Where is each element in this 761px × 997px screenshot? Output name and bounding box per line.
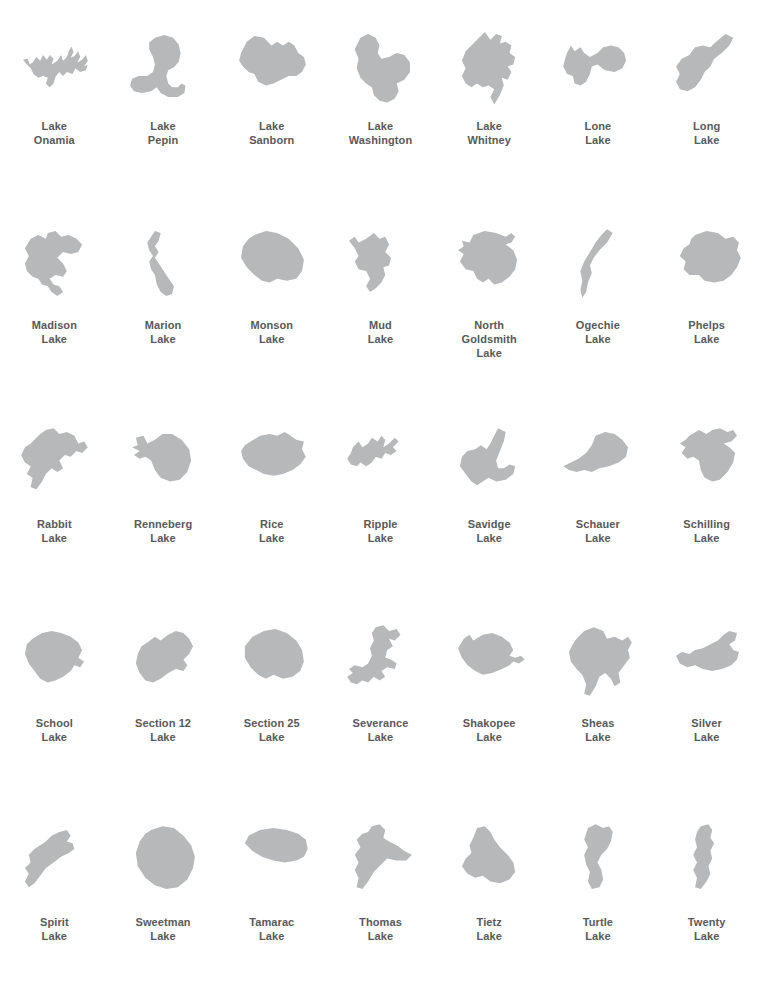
lake-caption: Lake Sanborn	[220, 119, 324, 147]
lake-caption: Silver Lake	[655, 716, 759, 744]
lake-pepin-outline-icon	[113, 12, 213, 117]
lake-cell[interactable]: Turtle Lake	[544, 798, 653, 997]
lake-sanborn-outline-icon	[222, 12, 322, 117]
turtle-lake-outline-icon	[548, 808, 648, 913]
lake-cell[interactable]: Schilling Lake	[652, 400, 761, 599]
lake-cell[interactable]: Lake Washington	[326, 2, 435, 201]
lake-caption: Tamarac Lake	[220, 915, 324, 943]
marion-lake-outline-icon	[113, 211, 213, 316]
lake-caption: Renneberg Lake	[111, 517, 215, 545]
lake-cell[interactable]: Schauer Lake	[544, 400, 653, 599]
lake-cell[interactable]: Phelps Lake	[652, 201, 761, 400]
lake-cell[interactable]: Rabbit Lake	[0, 400, 109, 599]
lake-caption: Twenty Lake	[655, 915, 759, 943]
lake-cell[interactable]: Section 25 Lake	[217, 599, 326, 798]
lake-cell[interactable]: Lone Lake	[544, 2, 653, 201]
lake-caption: Lake Whitney	[437, 119, 541, 147]
sheas-lake-outline-icon	[548, 609, 648, 714]
lake-caption: Sheas Lake	[546, 716, 650, 744]
lake-caption: Ogechie Lake	[546, 318, 650, 346]
school-lake-outline-icon	[4, 609, 104, 714]
severance-lake-outline-icon	[330, 609, 430, 714]
lake-cell[interactable]: Sheas Lake	[544, 599, 653, 798]
lake-cell[interactable]: Mud Lake	[326, 201, 435, 400]
lake-caption: School Lake	[2, 716, 106, 744]
lake-caption: Tietz Lake	[437, 915, 541, 943]
lake-cell[interactable]: Long Lake	[652, 2, 761, 201]
lake-cell[interactable]: Silver Lake	[652, 599, 761, 798]
lake-caption: Shakopee Lake	[437, 716, 541, 744]
lake-cell[interactable]: Renneberg Lake	[109, 400, 218, 599]
ripple-lake-outline-icon	[330, 410, 430, 515]
long-lake-outline-icon	[657, 12, 757, 117]
lake-whitney-outline-icon	[439, 12, 539, 117]
lake-outline-plate: Lake OnamiaLake PepinLake SanbornLake Wa…	[0, 0, 761, 997]
mud-lake-outline-icon	[330, 211, 430, 316]
lake-caption: Mud Lake	[328, 318, 432, 346]
lake-cell[interactable]: Twenty Lake	[652, 798, 761, 997]
lake-caption: Severance Lake	[328, 716, 432, 744]
lake-cell[interactable]: Ripple Lake	[326, 400, 435, 599]
thomas-lake-outline-icon	[330, 808, 430, 913]
lake-caption: Marion Lake	[111, 318, 215, 346]
lake-cell[interactable]: North Goldsmith Lake	[435, 201, 544, 400]
lake-caption: Schauer Lake	[546, 517, 650, 545]
lake-caption: Long Lake	[655, 119, 759, 147]
lake-caption: Sweetman Lake	[111, 915, 215, 943]
lake-caption: Monson Lake	[220, 318, 324, 346]
lake-caption: Rabbit Lake	[2, 517, 106, 545]
phelps-lake-outline-icon	[657, 211, 757, 316]
lake-caption: Savidge Lake	[437, 517, 541, 545]
lake-caption: Section 12 Lake	[111, 716, 215, 744]
lake-cell[interactable]: Spirit Lake	[0, 798, 109, 997]
lake-cell[interactable]: Madison Lake	[0, 201, 109, 400]
lake-caption: Turtle Lake	[546, 915, 650, 943]
lake-caption: Lone Lake	[546, 119, 650, 147]
lake-caption: Phelps Lake	[655, 318, 759, 346]
lake-cell[interactable]: Savidge Lake	[435, 400, 544, 599]
lake-cell[interactable]: Rice Lake	[217, 400, 326, 599]
rabbit-lake-outline-icon	[4, 410, 104, 515]
lake-caption: Ripple Lake	[328, 517, 432, 545]
lake-cell[interactable]: Lake Pepin	[109, 2, 218, 201]
lake-caption: Schilling Lake	[655, 517, 759, 545]
lake-cell[interactable]: School Lake	[0, 599, 109, 798]
twenty-lake-outline-icon	[657, 808, 757, 913]
lake-caption: Madison Lake	[2, 318, 106, 346]
tamarac-lake-outline-icon	[222, 808, 322, 913]
sweetman-lake-outline-icon	[113, 808, 213, 913]
lake-caption: North Goldsmith Lake	[437, 318, 541, 360]
silver-lake-outline-icon	[657, 609, 757, 714]
renneberg-lake-outline-icon	[113, 410, 213, 515]
lake-cell[interactable]: Ogechie Lake	[544, 201, 653, 400]
lake-onamia-outline-icon	[4, 12, 104, 117]
lake-cell[interactable]: Shakopee Lake	[435, 599, 544, 798]
lake-cell[interactable]: Monson Lake	[217, 201, 326, 400]
section-12-lake-outline-icon	[113, 609, 213, 714]
lake-cell[interactable]: Lake Onamia	[0, 2, 109, 201]
rice-lake-outline-icon	[222, 410, 322, 515]
lake-caption: Thomas Lake	[328, 915, 432, 943]
lake-cell[interactable]: Section 12 Lake	[109, 599, 218, 798]
lake-cell[interactable]: Marion Lake	[109, 201, 218, 400]
schilling-lake-outline-icon	[657, 410, 757, 515]
shakopee-lake-outline-icon	[439, 609, 539, 714]
lake-caption: Lake Pepin	[111, 119, 215, 147]
lake-grid: Lake OnamiaLake PepinLake SanbornLake Wa…	[0, 0, 761, 995]
lake-caption: Section 25 Lake	[220, 716, 324, 744]
lake-caption: Lake Onamia	[2, 119, 106, 147]
spirit-lake-outline-icon	[4, 808, 104, 913]
lake-cell[interactable]: Tietz Lake	[435, 798, 544, 997]
lake-cell[interactable]: Severance Lake	[326, 599, 435, 798]
lake-washington-outline-icon	[330, 12, 430, 117]
lake-cell[interactable]: Lake Sanborn	[217, 2, 326, 201]
lake-cell[interactable]: Tamarac Lake	[217, 798, 326, 997]
lake-cell[interactable]: Lake Whitney	[435, 2, 544, 201]
lake-cell[interactable]: Thomas Lake	[326, 798, 435, 997]
lake-cell[interactable]: Sweetman Lake	[109, 798, 218, 997]
tietz-lake-outline-icon	[439, 808, 539, 913]
madison-lake-outline-icon	[4, 211, 104, 316]
lake-caption: Rice Lake	[220, 517, 324, 545]
monson-lake-outline-icon	[222, 211, 322, 316]
savidge-lake-outline-icon	[439, 410, 539, 515]
